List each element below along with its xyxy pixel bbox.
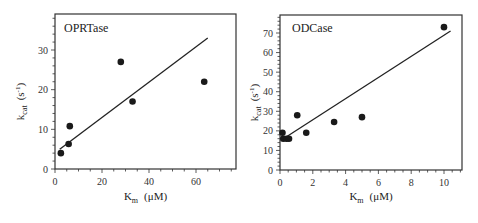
y-tick-label: 40 — [263, 86, 273, 97]
y-tick-label: 20 — [38, 84, 48, 95]
plot-frame — [280, 15, 462, 170]
chart-oprtase: 02040600102030OPRTaseKm(μM)kcat(s-1) — [14, 14, 236, 205]
data-point — [441, 24, 448, 31]
x-axis-label: Km(μM) — [349, 190, 393, 205]
y-axis-label: kcat(s-1) — [14, 83, 29, 121]
data-point — [279, 130, 286, 137]
chart-odcase: 0246810010203040506070ODCaseKm(μM)kcat(s… — [248, 15, 462, 205]
y-tick-label: 60 — [263, 47, 273, 58]
y-axis-label: kcat(s-1) — [248, 84, 263, 122]
regression-line — [60, 38, 208, 149]
panel-title: OPRTase — [64, 21, 108, 35]
y-tick-label: 0 — [43, 164, 48, 175]
y-tick-label: 70 — [263, 28, 273, 39]
x-tick-label: 6 — [376, 177, 381, 188]
y-tick-label: 10 — [263, 145, 273, 156]
x-tick-label: 2 — [310, 177, 315, 188]
data-point — [129, 98, 136, 105]
y-tick-label: 30 — [263, 106, 273, 117]
data-point — [58, 150, 65, 157]
y-tick-label: 30 — [38, 45, 48, 56]
data-point — [294, 112, 301, 119]
x-tick-label: 10 — [439, 177, 449, 188]
y-tick-label: 10 — [38, 124, 48, 135]
data-point — [359, 114, 366, 121]
plot-frame — [55, 14, 236, 169]
y-tick-label: 50 — [263, 67, 273, 78]
x-tick-label: 0 — [278, 177, 283, 188]
panel-title: ODCase — [292, 21, 333, 35]
x-axis-label: Km(μM) — [124, 190, 168, 205]
y-tick-label: 20 — [263, 125, 273, 136]
x-tick-label: 8 — [409, 177, 414, 188]
figure: 02040600102030OPRTaseKm(μM)kcat(s-1)0246… — [0, 0, 478, 223]
regression-line — [285, 31, 451, 138]
x-tick-label: 4 — [343, 177, 348, 188]
x-tick-label: 40 — [144, 176, 154, 187]
data-point — [286, 135, 293, 142]
x-tick-label: 0 — [53, 176, 58, 187]
data-point — [65, 141, 72, 148]
y-tick-label: 0 — [268, 165, 273, 176]
x-tick-label: 20 — [97, 176, 107, 187]
data-point — [331, 119, 338, 126]
data-point — [67, 123, 74, 130]
data-point — [303, 130, 310, 137]
data-point — [118, 59, 125, 66]
data-point — [201, 78, 208, 85]
x-tick-label: 60 — [191, 176, 201, 187]
